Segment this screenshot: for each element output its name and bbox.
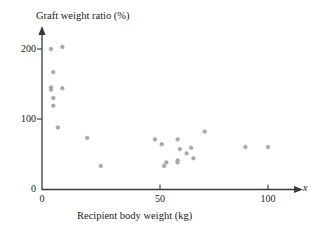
data-point xyxy=(244,145,248,149)
data-point xyxy=(60,86,64,90)
y-tick-label-100: 100 xyxy=(8,114,36,124)
data-point xyxy=(164,161,168,165)
data-point xyxy=(85,136,89,140)
data-point xyxy=(51,96,55,100)
data-point xyxy=(49,47,53,51)
data-point xyxy=(203,130,207,134)
data-point xyxy=(162,164,166,168)
data-point xyxy=(51,70,55,74)
data-point xyxy=(56,126,60,130)
y-axis-group xyxy=(37,26,46,190)
scatter-plot-figure: Graft weight ratio (%) Recipient body we… xyxy=(0,0,325,234)
x-axis-arrowhead xyxy=(294,186,303,193)
data-point-series xyxy=(49,45,270,168)
x-variable-symbol-label: x xyxy=(303,183,307,193)
x-tick-label-50: 50 xyxy=(147,194,173,204)
data-point xyxy=(153,137,157,141)
data-point xyxy=(176,137,180,141)
x-tick-label-100: 100 xyxy=(255,194,281,204)
y-axis-arrowhead xyxy=(38,26,45,35)
x-axis-label: Recipient body weight (kg) xyxy=(77,211,192,222)
data-point xyxy=(189,146,193,150)
data-point xyxy=(99,164,103,168)
x-axis-group xyxy=(42,185,304,194)
data-point xyxy=(51,104,55,108)
y-tick-label-0: 0 xyxy=(8,184,36,194)
data-point xyxy=(176,161,180,165)
y-tick-label-200: 200 xyxy=(8,44,36,54)
data-point xyxy=(192,156,196,160)
data-point xyxy=(266,145,270,149)
chart-title: Graft weight ratio (%) xyxy=(36,11,130,22)
data-point xyxy=(60,45,64,49)
data-point xyxy=(49,88,53,92)
x-tick-label-0: 0 xyxy=(29,194,55,204)
data-point xyxy=(178,147,182,151)
data-point xyxy=(160,142,164,146)
data-point xyxy=(185,151,189,155)
